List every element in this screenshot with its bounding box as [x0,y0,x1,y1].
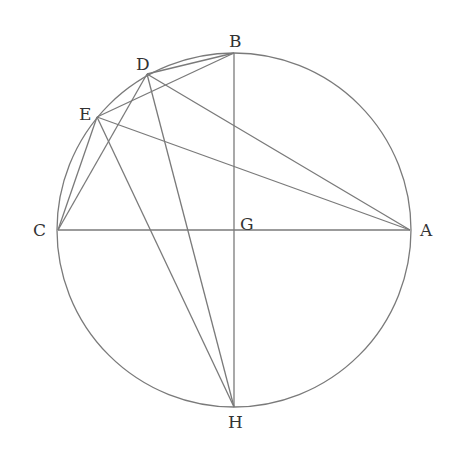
segment-dh [147,74,234,407]
segments-group [58,53,410,407]
point-label-e: E [79,104,91,124]
point-labels-group: A B C D E G H [33,31,433,432]
point-label-g: G [240,214,254,234]
geometry-diagram: A B C D E G H [0,0,455,458]
point-label-d: D [136,54,150,74]
point-label-h: H [228,412,243,432]
point-label-b: B [229,31,242,51]
segment-bd [147,53,234,74]
segment-dc [58,74,147,230]
point-label-a: A [419,220,433,240]
point-label-c: C [33,220,46,240]
segment-da [147,74,410,230]
segment-ec [58,117,97,230]
